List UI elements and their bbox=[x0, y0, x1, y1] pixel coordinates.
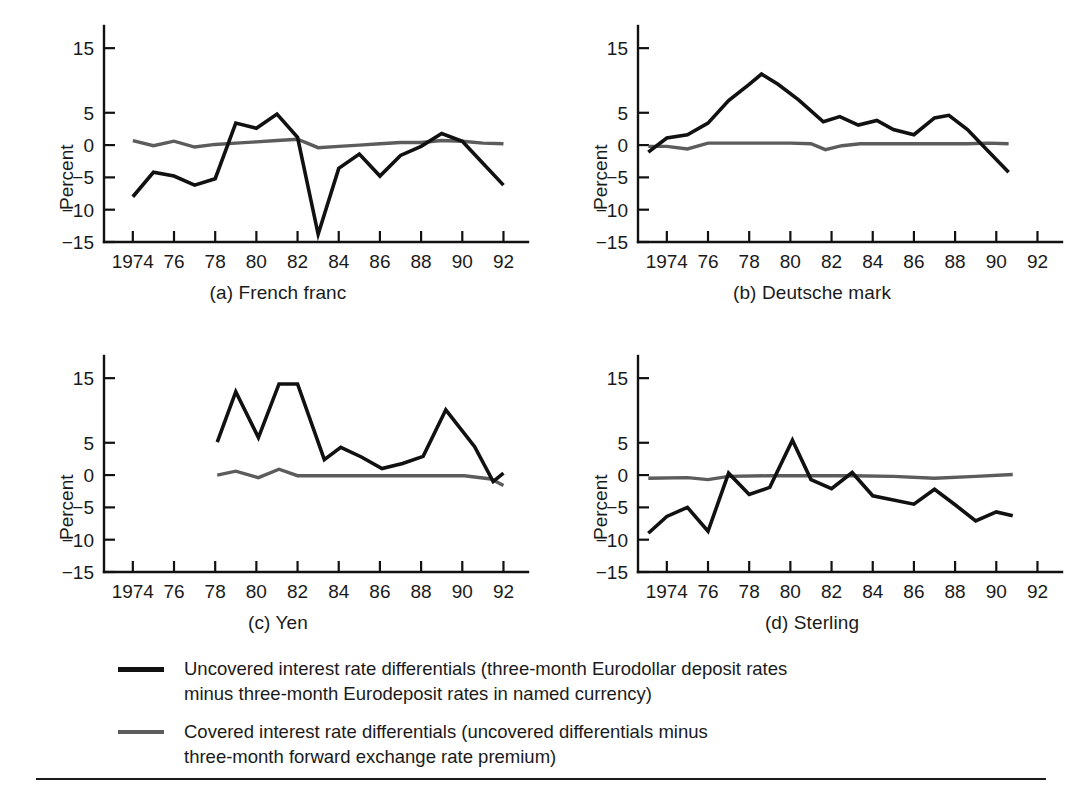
series-line-uncovered bbox=[648, 74, 1008, 172]
x-tick-label: 90 bbox=[986, 251, 1007, 272]
panel-b-caption: (b) Deutsche mark bbox=[556, 282, 1068, 304]
series-line-uncovered bbox=[217, 384, 503, 482]
series-line-covered bbox=[648, 143, 1008, 149]
figure-interest-rate-differentials: Percent 1550−5−10−1519747678808284868890… bbox=[0, 0, 1069, 797]
panel-a-caption: (a) French franc bbox=[22, 282, 534, 304]
y-tick-label: 0 bbox=[83, 465, 94, 486]
x-tick-label: 78 bbox=[739, 581, 760, 602]
x-tick-label: 78 bbox=[739, 251, 760, 272]
x-tick-label: 90 bbox=[452, 581, 473, 602]
panel-a-french-franc: Percent 1550−5−10−1519747678808284868890… bbox=[22, 14, 534, 282]
panel-d-sterling: Percent 1550−5−10−1519747678808284868890… bbox=[556, 344, 1068, 612]
panel-d-caption: (d) Sterling bbox=[556, 612, 1068, 634]
panel-b-plot: 1550−5−10−151974767880828486889092 bbox=[556, 14, 1068, 274]
x-tick-label: 76 bbox=[697, 581, 718, 602]
panel-c-plot: 1550−5−10−151974767880828486889092 bbox=[22, 344, 534, 604]
panel-d-plot: 1550−5−10−151974767880828486889092 bbox=[556, 344, 1068, 604]
y-tick-label: −15 bbox=[596, 232, 628, 253]
panel-c-yen: Percent 1550−5−10−1519747678808284868890… bbox=[22, 344, 534, 612]
panel-c-caption: (c) Yen bbox=[22, 612, 534, 634]
y-tick-label: 0 bbox=[617, 135, 628, 156]
x-tick-label: 86 bbox=[369, 581, 390, 602]
x-tick-label: 1974 bbox=[646, 251, 689, 272]
y-tick-label: 5 bbox=[83, 103, 94, 124]
y-tick-label: 15 bbox=[607, 38, 628, 59]
legend-swatch-uncovered-line-icon bbox=[118, 667, 164, 672]
x-tick-label: 82 bbox=[287, 251, 308, 272]
legend-swatch-covered-line-icon bbox=[118, 730, 164, 734]
y-tick-label: −15 bbox=[62, 232, 94, 253]
x-tick-label: 82 bbox=[287, 581, 308, 602]
legend-item-covered: Covered interest rate differentials (unc… bbox=[118, 719, 918, 769]
x-tick-label: 84 bbox=[862, 251, 884, 272]
x-tick-label: 90 bbox=[986, 581, 1007, 602]
x-tick-label: 84 bbox=[328, 251, 350, 272]
x-tick-label: 78 bbox=[205, 251, 226, 272]
x-tick-label: 92 bbox=[1027, 581, 1048, 602]
legend: Uncovered interest rate differentials (t… bbox=[118, 656, 918, 782]
x-tick-label: 82 bbox=[821, 581, 842, 602]
x-tick-label: 80 bbox=[246, 251, 267, 272]
x-tick-label: 86 bbox=[369, 251, 390, 272]
x-tick-label: 92 bbox=[493, 251, 514, 272]
x-tick-label: 76 bbox=[163, 251, 184, 272]
legend-uncovered-line2: minus three-month Eurodeposit rates in n… bbox=[184, 681, 918, 706]
legend-item-uncovered: Uncovered interest rate differentials (t… bbox=[118, 656, 918, 706]
x-tick-label: 1974 bbox=[646, 581, 689, 602]
y-tick-label: 15 bbox=[607, 368, 628, 389]
x-tick-label: 80 bbox=[780, 251, 801, 272]
x-tick-label: 76 bbox=[163, 581, 184, 602]
panel-b-deutsche-mark: Percent 1550−5−10−1519747678808284868890… bbox=[556, 14, 1068, 282]
x-tick-label: 80 bbox=[246, 581, 267, 602]
panel-d-ylabel: Percent bbox=[590, 475, 612, 540]
y-tick-label: 5 bbox=[617, 433, 628, 454]
y-tick-label: 5 bbox=[617, 103, 628, 124]
x-tick-label: 86 bbox=[903, 251, 924, 272]
legend-covered-line1: Covered interest rate differentials (unc… bbox=[184, 719, 918, 744]
x-tick-label: 1974 bbox=[112, 251, 155, 272]
panel-b-ylabel: Percent bbox=[590, 145, 612, 210]
x-tick-label: 78 bbox=[205, 581, 226, 602]
x-tick-label: 84 bbox=[862, 581, 884, 602]
y-tick-label: 15 bbox=[73, 38, 94, 59]
y-tick-label: 5 bbox=[83, 433, 94, 454]
series-line-uncovered bbox=[133, 114, 504, 234]
y-tick-label: 0 bbox=[617, 465, 628, 486]
x-tick-label: 88 bbox=[945, 251, 966, 272]
x-tick-label: 80 bbox=[780, 581, 801, 602]
x-tick-label: 88 bbox=[411, 251, 432, 272]
x-tick-label: 86 bbox=[903, 581, 924, 602]
y-tick-label: 15 bbox=[73, 368, 94, 389]
y-tick-label: −15 bbox=[62, 562, 94, 583]
series-line-covered bbox=[133, 139, 504, 147]
y-tick-label: 0 bbox=[83, 135, 94, 156]
x-tick-label: 88 bbox=[411, 581, 432, 602]
x-tick-label: 82 bbox=[821, 251, 842, 272]
x-tick-label: 1974 bbox=[112, 581, 155, 602]
series-line-uncovered bbox=[648, 440, 1012, 533]
x-tick-label: 92 bbox=[493, 581, 514, 602]
footer-rule bbox=[36, 778, 1046, 780]
panel-a-ylabel: Percent bbox=[56, 145, 78, 210]
panel-c-ylabel: Percent bbox=[56, 475, 78, 540]
x-tick-label: 88 bbox=[945, 581, 966, 602]
x-tick-label: 76 bbox=[697, 251, 718, 272]
legend-uncovered-line1: Uncovered interest rate differentials (t… bbox=[184, 656, 918, 681]
x-tick-label: 92 bbox=[1027, 251, 1048, 272]
legend-covered-line2: three-month forward exchange rate premiu… bbox=[184, 744, 918, 769]
series-line-covered bbox=[217, 469, 503, 485]
x-tick-label: 90 bbox=[452, 251, 473, 272]
panel-a-plot: 1550−5−10−151974767880828486889092 bbox=[22, 14, 534, 274]
x-tick-label: 84 bbox=[328, 581, 350, 602]
series-line-covered bbox=[648, 474, 1012, 479]
y-tick-label: −15 bbox=[596, 562, 628, 583]
